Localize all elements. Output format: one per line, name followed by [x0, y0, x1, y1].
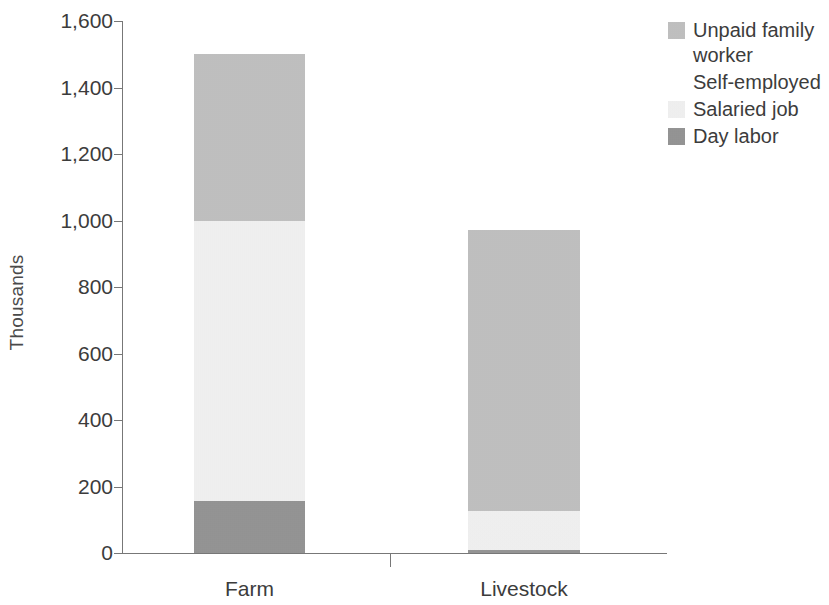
y-axis-tick-mark [114, 154, 123, 155]
bar-segment [194, 54, 305, 220]
legend-swatch-texture [668, 128, 685, 145]
bar-segment [194, 221, 305, 502]
y-axis-tick-mark [114, 21, 123, 22]
y-axis-tick-mark [114, 88, 123, 89]
bar-texture [194, 501, 305, 553]
bar-segment [468, 511, 580, 549]
bar-segment [194, 501, 305, 553]
stacked-bar-chart: Thousands 02004006008001,0001,2001,4001,… [0, 0, 829, 605]
legend-swatch-icon [668, 101, 685, 118]
bar-texture [468, 230, 580, 511]
legend-label: Day labor [693, 124, 779, 149]
y-axis-tick-mark [114, 553, 123, 554]
x-axis-category-label: Livestock [468, 578, 580, 599]
bar-texture [194, 221, 305, 502]
legend-swatch-icon [668, 74, 685, 91]
legend-swatch-icon [668, 128, 685, 145]
legend-item[interactable]: Self-employed [668, 70, 829, 95]
legend-item[interactable]: Day labor [668, 124, 829, 149]
legend-swatch-texture [668, 101, 685, 118]
bar-segment [468, 230, 580, 511]
bar-texture [468, 550, 580, 553]
legend-swatch-icon [668, 22, 685, 39]
x-axis-category-label: Farm [194, 578, 305, 599]
bar-segment [468, 550, 580, 553]
y-axis-tick-mark [114, 487, 123, 488]
y-axis-tick-mark [114, 287, 123, 288]
legend-item[interactable]: Unpaid family worker [668, 18, 829, 68]
y-axis-tick-mark [114, 221, 123, 222]
legend-label: Salaried job [693, 97, 799, 122]
y-axis-tick-mark [114, 354, 123, 355]
y-axis-tick-mark [114, 420, 123, 421]
legend-label: Unpaid family worker [693, 18, 814, 68]
legend-swatch-texture [668, 22, 685, 39]
bar-texture [468, 511, 580, 549]
bar-texture [194, 54, 305, 220]
legend-label: Self-employed [693, 70, 821, 95]
legend-item[interactable]: Salaried job [668, 97, 829, 122]
legend: Unpaid family workerSelf-employedSalarie… [668, 18, 829, 151]
